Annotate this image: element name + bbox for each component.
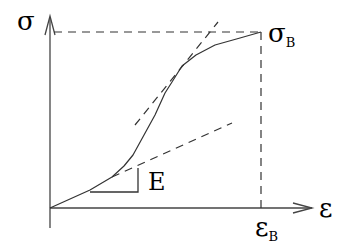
modulus-label: E xyxy=(148,170,166,194)
x-axis-label: ε xyxy=(319,195,332,221)
slope-triangle xyxy=(90,168,138,192)
initial-tangent-line xyxy=(112,123,232,177)
ultimate-stress-subscript: B xyxy=(286,35,296,50)
steep-tangent-line xyxy=(135,22,218,125)
ultimate-strain-symbol: ε xyxy=(255,212,268,242)
stress-strain-diagram: σ σB E ε εB xyxy=(0,0,347,248)
ultimate-stress-symbol: σ xyxy=(268,18,286,48)
ultimate-strain-subscript: B xyxy=(268,229,278,244)
ultimate-strain-label: εB xyxy=(255,214,278,240)
y-axis-label: σ xyxy=(17,8,35,34)
ultimate-stress-label: σB xyxy=(268,20,295,46)
